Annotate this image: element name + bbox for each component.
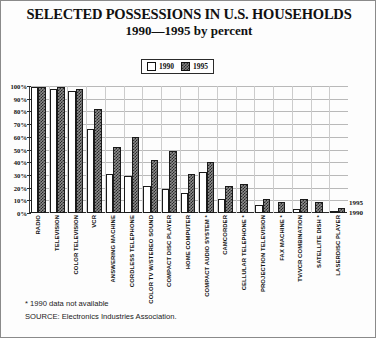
- x-axis-label: COLOR TV W/STEREO SOUND: [148, 215, 154, 304]
- bar-group: [48, 86, 67, 213]
- bar-group: [235, 86, 254, 213]
- x-axis-label: COLOR TELEVISION: [73, 215, 79, 275]
- bar-group: [197, 86, 216, 213]
- bar-1990: [87, 129, 94, 213]
- bar-1995: [263, 199, 270, 213]
- bar-group: [328, 86, 347, 213]
- bar-1990: [199, 172, 206, 213]
- bar-1995: [151, 160, 158, 213]
- bar-group: [253, 86, 272, 213]
- bar-1990: [68, 91, 75, 213]
- x-axis-label: ANSWERING MACHINE: [110, 215, 116, 282]
- bar-group: [141, 86, 160, 213]
- x-axis-label: HOME COMPUTER: [185, 215, 191, 269]
- x-axis-label: TV/VCR COMBINATION: [297, 215, 303, 282]
- bar-1990: [124, 176, 131, 213]
- footnotes-block: * 1990 data not available SOURCE: Electr…: [25, 297, 355, 323]
- chart-subtitle: 1990—1995 by percent: [1, 23, 376, 38]
- bar-1995: [315, 202, 322, 213]
- x-axis-label: VCR: [91, 215, 97, 228]
- bar-1990: [106, 174, 113, 213]
- series-callout-1990: 1990: [349, 209, 363, 217]
- footnote-data-availability: * 1990 data not available: [25, 297, 355, 310]
- bar-group: [85, 86, 104, 213]
- bar-1995: [240, 184, 247, 213]
- title-block: SELECTED POSSESSIONS IN U.S. HOUSEHOLDS …: [1, 7, 376, 38]
- legend-label-1990: 1990: [159, 62, 174, 71]
- x-axis-label: TELEVISION: [54, 215, 60, 251]
- bar-1990: [31, 87, 38, 213]
- chart-page: SELECTED POSSESSIONS IN U.S. HOUSEHOLDS …: [0, 0, 376, 338]
- bar-1990: [162, 189, 169, 213]
- x-axis-label: SATELLITE DISH *: [316, 215, 322, 268]
- bar-1990: [181, 193, 188, 213]
- chart-legend: 1990 1995: [141, 59, 214, 74]
- x-axis-label: CAMCORDER: [222, 215, 228, 255]
- x-axis-labels: RADIOTELEVISIONCOLOR TELEVISIONVCRANSWER…: [29, 215, 347, 291]
- legend-item-1990: 1990: [147, 62, 174, 71]
- bar-1995: [338, 208, 345, 213]
- hatched-square-swatch-icon: [181, 62, 190, 71]
- bar-group: [272, 86, 291, 213]
- bar-1990: [293, 209, 300, 213]
- bar-group: [216, 86, 235, 213]
- bar-1995: [94, 109, 101, 213]
- bar-group: [123, 86, 142, 213]
- x-axis-label: CELLULAR TELEPHONE *: [241, 215, 247, 290]
- bar-1995: [225, 186, 232, 213]
- legend-item-1995: 1995: [181, 62, 208, 71]
- x-axis-label: PROJECTION TELEVISION: [260, 215, 266, 292]
- bar-group: [104, 86, 123, 213]
- bar-group: [29, 86, 48, 213]
- x-axis-label: LASERDISC PLAYER: [335, 215, 341, 276]
- x-axis-label: COMPACT DISC PLAYER: [166, 215, 172, 287]
- x-axis-label: RADIO: [35, 215, 41, 234]
- bar-group: [160, 86, 179, 213]
- bar-group: [66, 86, 85, 213]
- bar-1995: [38, 87, 45, 213]
- footnote-source: SOURCE: Electronics Industries Associati…: [25, 310, 355, 323]
- bar-1995: [132, 137, 139, 213]
- bar-1995: [169, 151, 176, 213]
- bar-1995: [76, 89, 83, 213]
- bars-layer: [29, 86, 347, 213]
- series-callout-1995: 1995: [349, 199, 363, 207]
- legend-label-1995: 1995: [193, 62, 208, 71]
- bar-1990: [50, 89, 57, 213]
- bar-1995: [188, 174, 195, 213]
- bar-1990: [330, 211, 337, 213]
- white-square-swatch-icon: [147, 62, 156, 71]
- page-title: SELECTED POSSESSIONS IN U.S. HOUSEHOLDS: [1, 7, 376, 22]
- bar-1995: [57, 87, 64, 213]
- x-axis-label: COMPACT AUDIO SYSTEM *: [204, 215, 210, 297]
- bar-group: [179, 86, 198, 213]
- bar-group: [291, 86, 310, 213]
- bar-1995: [300, 199, 307, 213]
- y-axis-tick-mark: [27, 213, 31, 214]
- x-axis-label: CORDLESS TELEPHONE: [129, 215, 135, 287]
- bar-1990: [218, 199, 225, 213]
- bar-group: [310, 86, 329, 213]
- bar-1995: [278, 202, 285, 213]
- bar-1995: [207, 162, 214, 213]
- x-axis-label: FAX MACHINE *: [279, 215, 285, 261]
- bar-1990: [143, 186, 150, 213]
- bar-1990: [255, 205, 262, 213]
- bar-1995: [113, 147, 120, 213]
